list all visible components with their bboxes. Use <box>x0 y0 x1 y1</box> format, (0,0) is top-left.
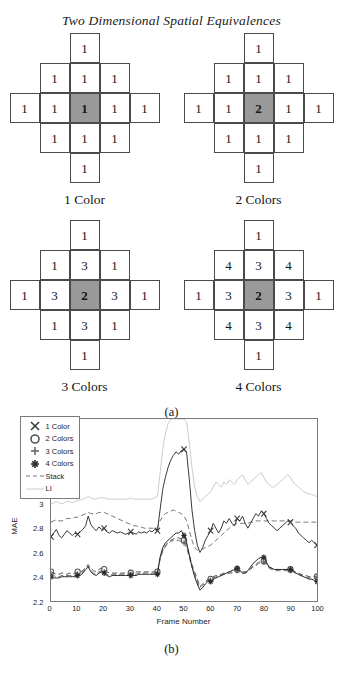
y-tick-label: 2.8 <box>33 524 43 533</box>
cross-grid: 1 1 1 1 1 1 2 1 1 1 1 1 1 <box>184 33 334 183</box>
cross-grid: 1 1 1 1 1 1 1 1 1 1 1 1 1 <box>10 33 160 183</box>
cell-r2c4: 1 <box>130 280 160 310</box>
cell-r4c2: 1 <box>70 340 100 370</box>
cell-r2c3: 1 <box>274 93 304 123</box>
x-tick-label: 10 <box>72 604 80 613</box>
cell-r2c0: 1 <box>184 280 214 310</box>
legend-label: 4 Colors <box>46 459 74 468</box>
diagram-1-color: 1 1 1 1 1 1 1 1 1 1 1 1 1 1 Color <box>1 29 169 208</box>
diagram-row-top: 1 1 1 1 1 1 1 1 1 1 1 1 1 1 Color 1 <box>0 29 343 208</box>
cell-r0c2: 1 <box>70 33 100 63</box>
x-tick-label: 100 <box>311 604 324 613</box>
diagram-2-colors: 1 1 1 1 1 1 2 1 1 1 1 1 1 2 Colors <box>175 29 343 208</box>
cell-r1c1: 1 <box>214 63 244 93</box>
cell-r2c0: 1 <box>10 280 40 310</box>
cell-r3c2: 3 <box>244 310 274 340</box>
plot-area <box>50 418 318 602</box>
x-tick-label: 40 <box>153 604 161 613</box>
diagram-label: 4 Colors <box>235 379 281 395</box>
cell-r2c4: 1 <box>304 280 334 310</box>
cell-r2c0: 1 <box>184 93 214 123</box>
cell-r0c2: 1 <box>244 33 274 63</box>
x-tick-label: 70 <box>233 604 241 613</box>
plus-marker <box>24 445 46 457</box>
cross-grid: 1 4 3 4 1 3 2 3 1 4 3 4 1 <box>184 220 334 370</box>
legend-item: 4 Colors <box>24 458 74 471</box>
cell-r0c2: 1 <box>70 220 100 250</box>
cell-r1c2: 1 <box>70 63 100 93</box>
figure-a: Two Dimensional Spatial Equivalences 1 1… <box>0 0 343 410</box>
cell-r3c2: 3 <box>70 310 100 340</box>
cell-r3c3: 1 <box>274 123 304 153</box>
x-marker <box>24 420 46 432</box>
y-tick-label: 2.2 <box>33 598 43 607</box>
cell-r2c1: 1 <box>40 93 70 123</box>
cell-r1c1: 1 <box>40 250 70 280</box>
figure-title: Two Dimensional Spatial Equivalences <box>0 0 343 29</box>
cell-r3c2: 1 <box>70 123 100 153</box>
cell-r4c2: 1 <box>70 153 100 183</box>
cell-r0c2: 1 <box>244 220 274 250</box>
legend-item: 3 Colors <box>24 445 74 458</box>
legend-label: 3 Colors <box>46 447 74 456</box>
circle-marker <box>24 433 46 445</box>
diagram-4-colors: 1 4 3 4 1 3 2 3 1 4 3 4 1 4 Colors <box>175 216 343 395</box>
chart-legend: 1 Color2 Colors3 Colors4 ColorsStackLI <box>20 416 81 499</box>
legend-item: 1 Color <box>24 420 74 433</box>
cell-r2c3: 1 <box>100 93 130 123</box>
legend-item: LI <box>24 483 74 496</box>
cell-r1c3: 1 <box>100 63 130 93</box>
chart: MAE 2.22.42.62.833.23.43.6 0102030405060… <box>12 410 332 642</box>
cell-center-shaded: 2 <box>244 93 274 123</box>
cell-r1c1: 4 <box>214 250 244 280</box>
legend-label: Stack <box>46 472 65 481</box>
cell-r1c3: 1 <box>100 250 130 280</box>
cell-r2c3: 3 <box>100 280 130 310</box>
x-tick-label: 90 <box>287 604 295 613</box>
y-tick-label: 2.6 <box>33 548 43 557</box>
cell-r1c2: 1 <box>244 63 274 93</box>
legend-label: 2 Colors <box>46 434 74 443</box>
line-sample-icon <box>24 470 46 482</box>
x-tick-label: 30 <box>126 604 134 613</box>
figure-b: MAE 2.22.42.62.833.23.43.6 0102030405060… <box>0 410 343 695</box>
cell-r1c2: 3 <box>244 250 274 280</box>
cell-r1c3: 4 <box>274 250 304 280</box>
cell-r4c2: 1 <box>244 340 274 370</box>
x-axis-ticks: 0102030405060708090100 <box>50 604 318 616</box>
cell-center-shaded: 2 <box>70 280 100 310</box>
diagram-row-bottom: 1 1 3 1 1 3 2 3 1 1 3 1 1 3 Colors 1 <box>0 216 343 395</box>
cell-r3c1: 1 <box>40 310 70 340</box>
cell-center-shaded: 1 <box>70 93 100 123</box>
cell-r2c1: 1 <box>214 93 244 123</box>
plot-lines <box>51 419 317 601</box>
legend-item: 2 Colors <box>24 433 74 446</box>
diagram-3-colors: 1 1 3 1 1 3 2 3 1 1 3 1 1 3 Colors <box>1 216 169 395</box>
cell-r4c2: 1 <box>244 153 274 183</box>
cross-grid: 1 1 3 1 1 3 2 3 1 1 3 1 1 <box>10 220 160 370</box>
cell-r2c3: 3 <box>274 280 304 310</box>
subfigure-caption-b: (b) <box>0 642 343 657</box>
cell-r3c1: 1 <box>214 123 244 153</box>
cell-r1c1: 1 <box>40 63 70 93</box>
cell-r1c3: 1 <box>274 63 304 93</box>
asterisk-marker <box>24 458 46 470</box>
diagram-label: 1 Color <box>64 192 105 208</box>
line-sample-icon <box>24 483 46 495</box>
cell-r3c2: 1 <box>244 123 274 153</box>
legend-label: 1 Color <box>46 422 70 431</box>
cell-r3c1: 1 <box>40 123 70 153</box>
cell-r2c0: 1 <box>10 93 40 123</box>
cell-r1c2: 3 <box>70 250 100 280</box>
cell-center-shaded: 2 <box>244 280 274 310</box>
y-tick-label: 3 <box>39 499 43 508</box>
cell-r2c4: 1 <box>304 93 334 123</box>
x-axis-label: Frame Number <box>50 617 318 626</box>
x-tick-label: 80 <box>260 604 268 613</box>
diagram-label: 3 Colors <box>61 379 107 395</box>
y-tick-label: 2.4 <box>33 573 43 582</box>
legend-item: Stack <box>24 470 74 483</box>
cell-r2c1: 3 <box>40 280 70 310</box>
cell-r3c3: 1 <box>100 123 130 153</box>
x-tick-label: 50 <box>179 604 187 613</box>
